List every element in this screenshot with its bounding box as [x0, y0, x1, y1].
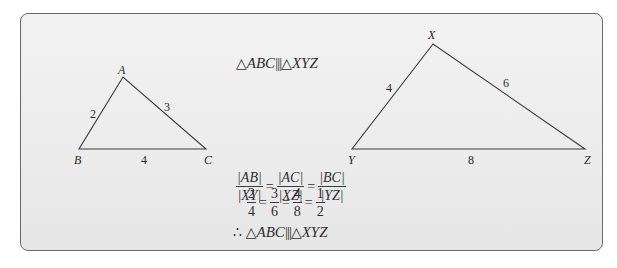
triangle-name-left: ABC [257, 224, 285, 240]
vertex-label-y: Y [348, 153, 356, 167]
vertex-label-b: B [74, 153, 82, 167]
vertex-label-z: Z [584, 153, 591, 167]
vertex-label-a: A [117, 63, 126, 77]
side-label-bc: 4 [141, 153, 147, 167]
ratio-2-4: 24 [247, 186, 256, 219]
side-label-ac: 3 [164, 100, 170, 114]
triangle-abc [79, 77, 206, 149]
ratio-3-6: 36 [270, 186, 279, 219]
triangle-xyz [352, 44, 585, 149]
numerator: 4 [293, 186, 302, 202]
numerator: 3 [270, 186, 279, 202]
triangle-symbol: △ [281, 56, 292, 71]
numerator: |AC| [277, 170, 305, 186]
side-label-xz: 6 [503, 76, 509, 90]
denominator: 8 [293, 203, 302, 219]
equals-sign: = [282, 195, 290, 211]
denominator: 4 [247, 203, 256, 219]
vertex-label-c: C [204, 153, 213, 167]
side-label-xy: 4 [386, 81, 392, 95]
side-label-yz: 8 [468, 153, 474, 167]
numerator: 1 [316, 186, 325, 202]
side-label-ab: 2 [90, 107, 96, 121]
denominator: 6 [270, 203, 279, 219]
vertex-label-x: X [427, 28, 436, 42]
triangle-name-right: XYZ [302, 224, 328, 240]
numeric-ratio-equation: 24 = 36 = 48 = 12 [246, 186, 326, 219]
equals-sign: = [259, 195, 267, 211]
numerator: 2 [247, 186, 256, 202]
numerator: |BC| [318, 170, 346, 186]
similarity-statement: △ABC|||△XYZ [236, 55, 318, 72]
triangle-name-right: XYZ [292, 55, 318, 71]
therefore-symbol: ∴ [233, 225, 242, 240]
denominator: 2 [316, 203, 325, 219]
triangle-symbol: △ [236, 56, 247, 71]
triangle-symbol: △ [291, 225, 302, 240]
triangle-symbol: △ [246, 225, 257, 240]
ratio-1-2: 12 [316, 186, 325, 219]
ratio-4-8: 48 [293, 186, 302, 219]
triangle-name-left: ABC [247, 55, 275, 71]
numerator: |AB| [236, 170, 263, 186]
conclusion-statement: ∴ △ABC|||△XYZ [233, 224, 328, 241]
equals-sign: = [305, 195, 313, 211]
